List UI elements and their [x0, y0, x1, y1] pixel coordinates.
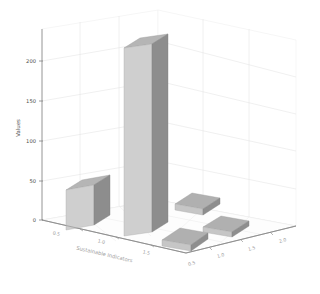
y-tick-label-100: 100 — [26, 138, 36, 144]
bar-2 — [124, 34, 168, 236]
y-tick-label-0: 0 — [33, 217, 36, 223]
y-tick-label-150: 150 — [26, 98, 36, 104]
y-axis-label: Values — [15, 119, 21, 137]
y-tick-label-200: 200 — [26, 58, 36, 64]
bar3d-chart: 0 50 100 150 200 Values 0.5 1.0 1.5 Sust… — [0, 0, 320, 294]
y-tick-label-50: 50 — [29, 178, 36, 184]
figure-canvas: 0 50 100 150 200 Values 0.5 1.0 1.5 Sust… — [0, 0, 320, 294]
back-right-wall — [158, 10, 296, 226]
